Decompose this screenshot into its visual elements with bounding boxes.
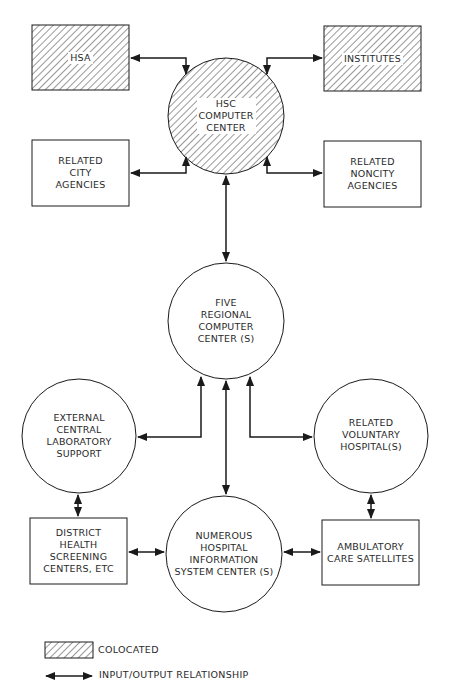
label-hsa: HSA (32, 25, 129, 90)
edge-regional-voluntary (250, 377, 312, 437)
edge-hsa-hsc (131, 58, 186, 74)
label-regional: FIVE REGIONAL COMPUTER CENTER (S) (168, 283, 284, 359)
label-district: DISTRICT HEALTH SCREENING CENTERS, ETC (30, 518, 127, 584)
label-institutes: INSTITUTES (324, 26, 421, 91)
edge-institutes-hsc (267, 58, 322, 74)
label-voluntary: RELATED VOLUNTARY HOSPITAL(S) (314, 405, 428, 465)
legend (45, 642, 93, 676)
edge-noncity-hsc (267, 157, 322, 173)
label-city: RELATED CITY AGENCIES (32, 140, 129, 206)
label-his: NUMEROUS HOSPITAL INFORMATION SYSTEM CEN… (164, 518, 284, 590)
legend-colocated-label: COLOCATED (98, 644, 159, 655)
label-lab: EXTERNAL CENTRAL LABORATORY SUPPORT (22, 400, 136, 472)
edge-city-hsc (131, 157, 186, 173)
label-ambulatory: AMBULATORY CARE SATELLITES (322, 520, 419, 585)
label-hsc: HSC COMPUTER CENTER (176, 96, 276, 136)
label-noncity: RELATED NONCITY AGENCIES (324, 141, 421, 207)
legend-hatch-swatch (45, 642, 93, 658)
edge-regional-lab (138, 377, 201, 437)
legend-io-label: INPUT/OUTPUT RELATIONSHIP (99, 669, 249, 680)
